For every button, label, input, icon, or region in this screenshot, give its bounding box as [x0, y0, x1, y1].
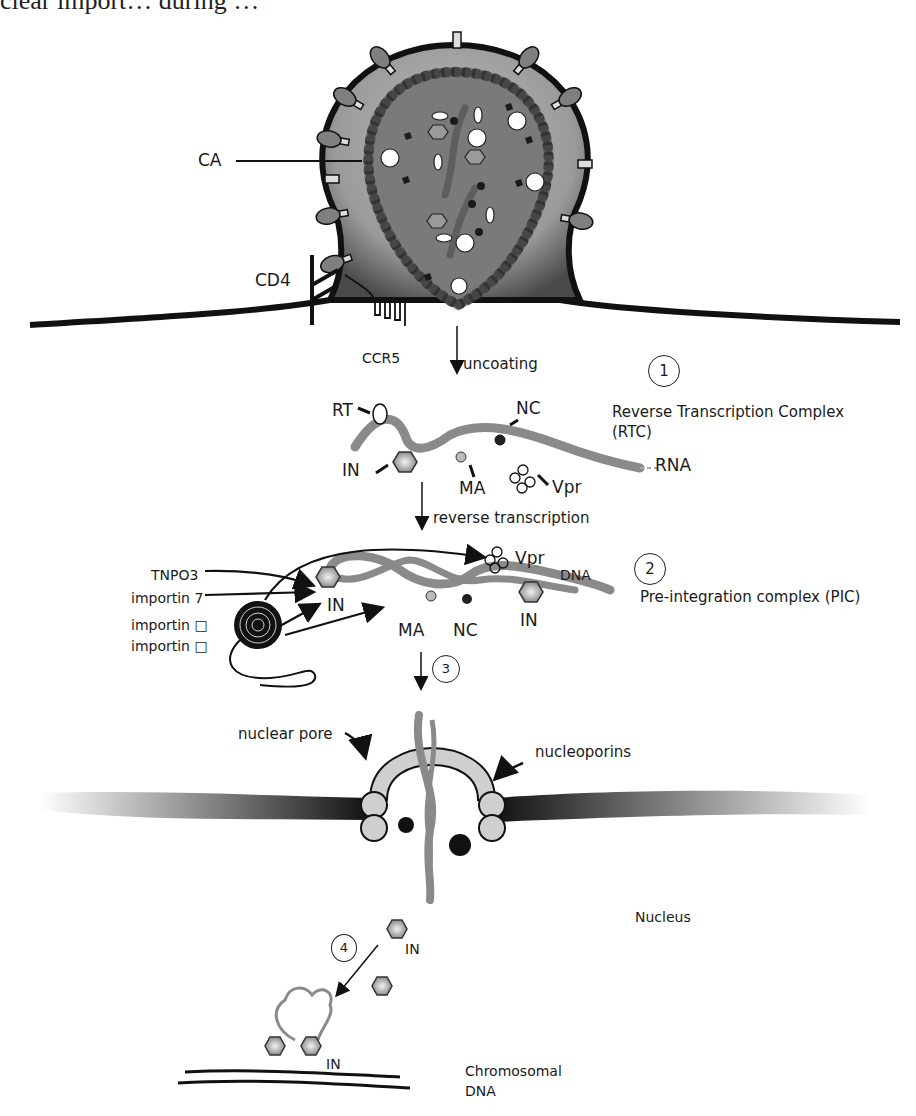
- label-cd4: CD4: [255, 272, 291, 289]
- pic-complex: [205, 547, 610, 688]
- in-hexagon: [393, 452, 417, 472]
- ma-protein: [426, 591, 436, 601]
- label-ma: MA: [398, 622, 424, 639]
- step-1-title: Reverse Transcription Complex: [612, 405, 844, 420]
- label-rt: RT: [332, 402, 353, 419]
- label-ma: MA: [459, 480, 485, 497]
- vpr-protein: [510, 465, 535, 493]
- label-importin-beta: importin □: [131, 639, 208, 653]
- label-nucleus: Nucleus: [635, 910, 691, 924]
- in-hexagon: [387, 920, 407, 938]
- label-in: IN: [327, 597, 345, 614]
- label-vpr: Vpr: [552, 479, 581, 496]
- label-ca: CA: [198, 152, 222, 169]
- step-4-badge: 4: [331, 934, 357, 962]
- label-in: IN: [326, 1057, 341, 1071]
- step-2-title: Pre-integration complex (PIC): [640, 590, 860, 605]
- label-vpr: Vpr: [515, 550, 544, 567]
- label-dna: DNA: [560, 568, 591, 582]
- label-ccr5: CCR5: [362, 351, 400, 365]
- label-chromosomal: Chromosomal: [465, 1064, 562, 1078]
- label-rna: RNA: [655, 457, 691, 474]
- rt-enzyme: [373, 404, 387, 424]
- label-importin-7: importin 7: [131, 591, 203, 605]
- circular-viral-dna: [276, 988, 331, 1040]
- step-1-subtitle: (RTC): [612, 425, 652, 440]
- nuclear-envelope: [40, 715, 870, 900]
- label-tnpo3: TNPO3: [151, 568, 198, 582]
- label-reverse-transcription: reverse transcription: [433, 511, 590, 526]
- chromosomal-dna: [185, 1071, 400, 1077]
- integration: [178, 920, 410, 1088]
- hiv-entry-diagram: [0, 0, 916, 1116]
- label-importin-alpha: importin □: [131, 618, 208, 632]
- in-hexagon: [316, 567, 340, 587]
- label-in: IN: [342, 462, 360, 479]
- label-nucleoporins: nucleoporins: [535, 745, 631, 760]
- in-hexagon: [519, 582, 543, 602]
- step-2-badge: 2: [634, 553, 666, 585]
- nc-protein: [495, 435, 505, 445]
- label-chromosomal-dna: DNA: [465, 1084, 496, 1098]
- label-in: IN: [405, 942, 420, 956]
- virion: [236, 32, 594, 372]
- label-nc: NC: [453, 622, 478, 639]
- step-3-badge: 3: [432, 655, 460, 683]
- nc-protein: [462, 594, 472, 604]
- step-1-badge: 1: [648, 355, 680, 387]
- in-hexagon: [301, 1037, 321, 1055]
- label-uncoating: uncoating: [463, 357, 538, 372]
- label-nc: NC: [516, 400, 541, 417]
- label-nuclear-pore: nuclear pore: [238, 727, 333, 742]
- in-hexagon: [372, 977, 392, 995]
- in-hexagon: [265, 1037, 285, 1055]
- ma-protein: [456, 452, 466, 462]
- label-in: IN: [520, 612, 538, 629]
